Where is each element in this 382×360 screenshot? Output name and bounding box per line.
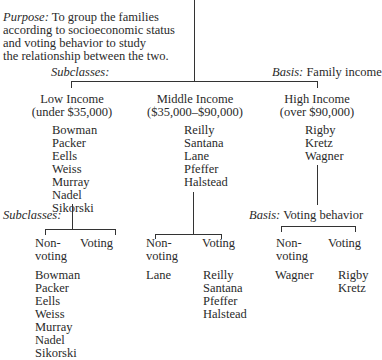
subclasses-label-level1: Subclasses: xyxy=(51,66,109,79)
high-nonvoting-heading: Non- voting xyxy=(276,237,308,263)
list-item: Halstead xyxy=(203,308,247,321)
list-item: Wagner xyxy=(305,150,344,163)
middle-split-connector xyxy=(193,192,194,235)
low-voting-heading: Voting xyxy=(80,237,113,250)
purpose-text: Purpose: To group the families according… xyxy=(3,11,175,63)
high-voting-heading: Voting xyxy=(328,237,361,250)
level1-branch xyxy=(71,81,318,82)
group-high-income: High Income (over $90,000) xyxy=(267,93,367,119)
middle-income-members: Reilly Santana Lane Pfeffer Halstead xyxy=(184,124,228,189)
low-income-members: Bowman Packer Eells Weiss Murray Nadel S… xyxy=(52,124,97,215)
low-income-connector xyxy=(71,81,72,88)
high-nonvoting-members: Wagner xyxy=(275,269,314,282)
low-split-branch xyxy=(45,229,116,230)
low-nonvoting-heading: Non- voting xyxy=(35,237,67,263)
high-voting-tick xyxy=(355,226,356,232)
middle-voting-members: Reilly Santana Pfeffer Halstead xyxy=(203,269,247,321)
list-item: Halstead xyxy=(184,176,228,189)
low-voting-tick xyxy=(115,229,116,235)
middle-nonvoting-heading: Non- voting xyxy=(146,237,178,263)
group-low-income: Low Income (under $35,000) xyxy=(22,93,122,119)
high-voting-members: Rigby Kretz xyxy=(338,269,369,295)
middle-nonvoting-members: Lane xyxy=(146,269,171,282)
low-nonvoting-members: Bowman Packer Eells Weiss Murray Nadel S… xyxy=(35,269,80,360)
purpose-label: Purpose: xyxy=(3,10,49,24)
subclasses-label-level2: Subclasses: xyxy=(3,209,61,222)
list-item: Sikorski xyxy=(35,347,80,360)
basis-label-level1: Basis: Family income xyxy=(272,66,382,79)
high-income-connector xyxy=(317,81,318,88)
root-connector xyxy=(194,0,195,82)
middle-split-branch xyxy=(155,234,222,235)
group-range: ($35,000–$90,000) xyxy=(145,106,245,119)
low-nonvoting-tick xyxy=(45,229,46,235)
high-income-members: Rigby Kretz Wagner xyxy=(305,124,344,163)
low-split-connector xyxy=(72,204,73,230)
list-item: Kretz xyxy=(338,282,369,295)
middle-voting-heading: Voting xyxy=(202,237,235,250)
group-range: (over $90,000) xyxy=(267,106,367,119)
high-split-connector xyxy=(317,165,318,205)
high-nonvoting-tick xyxy=(281,226,282,232)
basis-label-level2: Basis: Voting behavior xyxy=(249,209,363,222)
list-item: Wagner xyxy=(275,269,314,282)
high-split-branch xyxy=(281,226,356,227)
group-middle-income: Middle Income ($35,000–$90,000) xyxy=(145,93,245,119)
list-item: Lane xyxy=(146,269,171,282)
group-range: (under $35,000) xyxy=(22,106,122,119)
